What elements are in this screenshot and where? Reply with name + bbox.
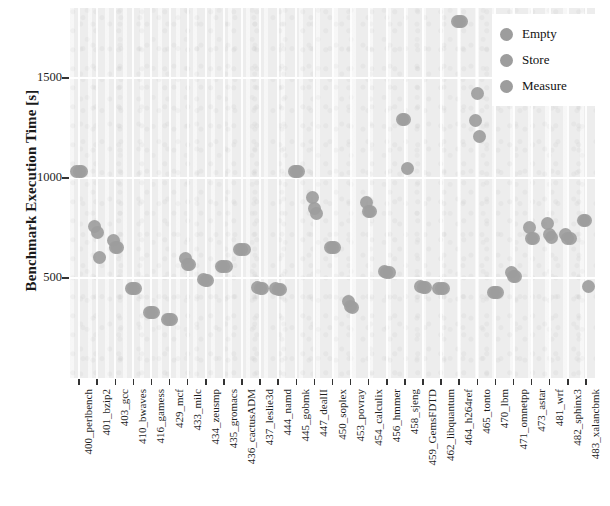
x-tick-mark-18 [404, 379, 406, 385]
gridline-x-0 [78, 8, 80, 378]
gridline-x-1 [96, 8, 98, 378]
x-tick-label-416_gamess: 416_gamess [155, 389, 166, 443]
x-tick-label-471_omnetpp: 471_omnetpp [518, 389, 529, 450]
x-tick-label-458_sjeng: 458_sjeng [409, 389, 420, 434]
data-point [527, 232, 540, 245]
gridline-x-14 [332, 8, 334, 378]
data-point [183, 258, 196, 271]
y-tick-label-500: 500 [43, 270, 62, 285]
data-point [310, 207, 323, 220]
legend-item-label: Empty [522, 26, 557, 42]
x-tick-mark-8 [223, 379, 225, 385]
gridline-x-11 [277, 8, 279, 378]
x-tick-label-464_h264ref: 464_h264ref [463, 389, 474, 445]
y-tick-label-1000: 1000 [37, 170, 62, 185]
x-tick-mark-22 [477, 379, 479, 385]
data-point [346, 301, 359, 314]
x-tick-mark-1 [96, 379, 98, 385]
x-tick-label-403_gcc: 403_gcc [119, 389, 130, 426]
gridline-x-20 [440, 8, 442, 378]
data-point [455, 15, 468, 28]
data-point [491, 286, 504, 299]
x-tick-mark-25 [531, 379, 533, 385]
data-point [469, 114, 482, 127]
x-tick-mark-16 [368, 379, 370, 385]
x-tick-mark-23 [495, 379, 497, 385]
x-tick-label-437_leslie3d: 437_leslie3d [264, 389, 275, 445]
x-tick-label-456_hmmer: 456_hmmer [391, 389, 402, 442]
legend-marker-icon [500, 80, 513, 93]
gridline-x-19 [422, 8, 424, 378]
x-tick-label-429_mcf: 429_mcf [174, 389, 185, 428]
x-tick-mark-19 [422, 379, 424, 385]
x-tick-mark-3 [133, 379, 135, 385]
legend-item-store[interactable]: Store [500, 47, 589, 73]
gridline-x-22 [476, 8, 478, 378]
data-point [220, 260, 233, 273]
data-point [509, 270, 522, 283]
gridline-x-6 [187, 8, 189, 378]
x-tick-label-435_gromacs: 435_gromacs [228, 389, 239, 448]
x-tick-mark-20 [440, 379, 442, 385]
data-point [292, 165, 305, 178]
x-tick-label-434_zeusmp: 434_zeusmp [210, 389, 221, 445]
scatter-chart-figure: Benchmark Execution Time [s] 50010001500… [0, 0, 610, 506]
data-point [91, 226, 104, 239]
x-tick-mark-21 [458, 379, 460, 385]
x-tick-label-436_cactusADM: 436_cactusADM [246, 389, 257, 464]
x-tick-mark-24 [513, 379, 515, 385]
data-point [93, 251, 106, 264]
y-tick-label-1500: 1500 [37, 70, 62, 85]
x-tick-label-450_soplex: 450_soplex [337, 389, 348, 440]
data-point [364, 205, 377, 218]
data-point [147, 306, 160, 319]
x-tick-mark-7 [205, 379, 207, 385]
gridline-x-12 [295, 8, 297, 378]
legend-item-label: Store [522, 52, 549, 68]
y-tick-mark-500 [62, 277, 69, 279]
x-tick-label-481_wrf: 481_wrf [554, 389, 565, 426]
x-tick-mark-13 [314, 379, 316, 385]
x-tick-label-454_calculix: 454_calculix [373, 389, 384, 446]
x-tick-label-465_tonto: 465_tonto [481, 389, 492, 434]
gridline-x-4 [150, 8, 152, 378]
data-point [545, 231, 558, 244]
x-tick-mark-11 [277, 379, 279, 385]
gridline-x-9 [241, 8, 243, 378]
gridline-x-17 [386, 8, 388, 378]
data-point [383, 266, 396, 279]
x-tick-label-410_bwaves: 410_bwaves [137, 389, 148, 444]
x-tick-label-453_povray: 453_povray [355, 389, 366, 442]
y-tick-mark-1500 [62, 77, 69, 79]
data-point [165, 313, 178, 326]
data-point [75, 165, 88, 178]
x-tick-label-459_GemsFDTD: 459_GemsFDTD [427, 389, 438, 465]
x-tick-mark-28 [585, 379, 587, 385]
legend-item-measure[interactable]: Measure [500, 73, 589, 99]
x-tick-mark-0 [78, 379, 80, 385]
chart-legend: EmptyStoreMeasure [492, 14, 595, 106]
data-point [111, 241, 124, 254]
x-tick-mark-26 [549, 379, 551, 385]
x-tick-label-400_perlbench: 400_perlbench [83, 389, 94, 454]
legend-item-empty[interactable]: Empty [500, 21, 589, 47]
data-point [564, 232, 577, 245]
gridline-x-21 [458, 8, 460, 378]
gridline-x-7 [205, 8, 207, 378]
legend-item-label: Measure [522, 78, 567, 94]
data-point [437, 282, 450, 295]
data-point [582, 280, 595, 293]
x-tick-label-401_bzip2: 401_bzip2 [101, 389, 112, 435]
gridline-x-8 [223, 8, 225, 378]
gridline-x-15 [350, 8, 352, 378]
data-point [129, 282, 142, 295]
x-tick-mark-4 [151, 379, 153, 385]
gridline-x-18 [404, 8, 406, 378]
data-point [398, 113, 411, 126]
x-tick-mark-15 [350, 379, 352, 385]
x-tick-label-462_libquantum: 462_libquantum [445, 389, 456, 461]
data-point [328, 241, 341, 254]
x-tick-label-433_milc: 433_milc [192, 389, 203, 431]
x-tick-label-470_lbm: 470_lbm [499, 389, 510, 428]
x-tick-mark-17 [386, 379, 388, 385]
